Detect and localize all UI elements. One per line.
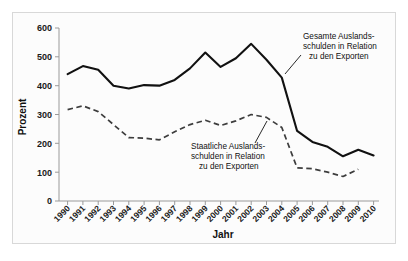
annotation-total-debt: Gesamte Auslands- schulden in Relation z… <box>285 32 377 74</box>
y-tick-label-100: 100 <box>37 168 52 178</box>
annotation-state-line-3: zu den Exporten <box>199 162 259 171</box>
chart-figure: 0 100 200 300 400 500 600 Prozent <box>12 12 396 244</box>
annotation-total-line-3: zu den Exporten <box>309 52 369 61</box>
line-chart: 0 100 200 300 400 500 600 Prozent <box>13 13 395 243</box>
y-tick-label-0: 0 <box>47 196 52 206</box>
annotation-state-debt: Staatliche Auslands- schulden in Relatio… <box>191 121 267 171</box>
annotation-state-line-2: schulden in Relation <box>191 152 265 161</box>
x-axis-title: Jahr <box>212 229 233 240</box>
annotation-leader-line-total <box>285 55 301 74</box>
annotation-leader-line-state <box>255 121 267 143</box>
x-tick-label-2010: 2010 <box>358 203 379 224</box>
y-tick-label-400: 400 <box>37 81 52 91</box>
y-tick-label-500: 500 <box>37 52 52 62</box>
x-tick-group <box>68 201 374 205</box>
y-tick-group <box>55 28 59 201</box>
y-tick-label-600: 600 <box>37 23 52 33</box>
y-axis-title: Prozent <box>17 98 28 135</box>
y-tick-label-200: 200 <box>37 139 52 149</box>
annotation-state-line-1: Staatliche Auslands- <box>191 142 265 151</box>
annotation-total-line-2: schulden in Relation <box>303 42 377 51</box>
annotation-total-line-1: Gesamte Auslands- <box>303 32 375 41</box>
y-tick-label-300: 300 <box>37 110 52 120</box>
